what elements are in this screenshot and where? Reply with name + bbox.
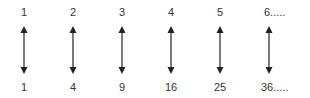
double-arrow-icon (116, 26, 128, 74)
double-arrow-icon (67, 26, 79, 74)
double-arrow-icon (263, 26, 275, 74)
column-4: 4 16 (151, 0, 191, 98)
natural-number: 1 (4, 6, 44, 18)
natural-number: 3 (102, 6, 142, 18)
column-2: 2 4 (53, 0, 93, 98)
column-1: 1 1 (4, 0, 44, 98)
column-6: 6..... 36..... (249, 0, 289, 98)
double-arrow-icon (18, 26, 30, 74)
square-number: 16 (151, 81, 191, 93)
natural-number: 2 (53, 6, 93, 18)
natural-number: 4 (151, 6, 191, 18)
square-number: 9 (102, 81, 142, 93)
natural-number: 6..... (264, 6, 310, 18)
square-number: 1 (4, 81, 44, 93)
square-number: 25 (200, 81, 240, 93)
square-number: 36..... (261, 81, 310, 93)
natural-number: 5 (200, 6, 240, 18)
column-3: 3 9 (102, 0, 142, 98)
double-arrow-icon (165, 26, 177, 74)
double-arrow-icon (214, 26, 226, 74)
square-number: 4 (53, 81, 93, 93)
column-5: 5 25 (200, 0, 240, 98)
